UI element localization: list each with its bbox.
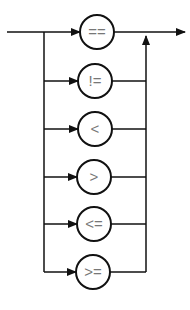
operator-node: < (44, 112, 146, 146)
operator-label: <= (85, 215, 103, 232)
operator-node: != (44, 64, 146, 98)
operator-node: >= (44, 255, 146, 289)
operator-label: < (91, 120, 100, 137)
operator-label: == (88, 23, 106, 40)
operator-label: >= (84, 263, 102, 280)
operator-node: <= (44, 207, 146, 241)
operator-label: != (89, 72, 102, 89)
syntax-diagram: ==!=<><=>= (0, 0, 190, 310)
operator-node: == (44, 15, 114, 49)
operator-label: > (90, 168, 99, 185)
operator-node: > (44, 160, 146, 194)
